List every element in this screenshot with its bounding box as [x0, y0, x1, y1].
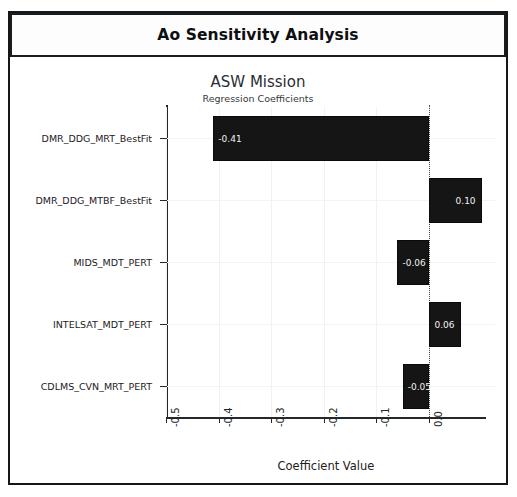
gridline-horizontal [166, 386, 495, 387]
zero-reference-line [429, 105, 431, 419]
chart-subtitle: Regression Coefficients [10, 93, 506, 104]
x-tick [219, 417, 220, 423]
bar: 0.10 [429, 178, 482, 223]
y-tick-label: CDLMS_CVN_MRT_PERT [41, 381, 152, 392]
x-tick-label: -0.4 [223, 407, 234, 427]
x-tick-label: 0.0 [433, 411, 444, 427]
y-tick [160, 386, 167, 387]
window-header: Ao Sensitivity Analysis [10, 13, 506, 57]
bar: 0.06 [429, 302, 461, 347]
y-tick-label: MIDS_MDT_PERT [73, 257, 152, 268]
bar-value-label: 0.06 [435, 320, 455, 330]
x-tick [376, 417, 377, 423]
y-tick-label: INTELSAT_MDT_PERT [53, 319, 152, 330]
y-tick [160, 138, 167, 139]
page-title: Ao Sensitivity Analysis [157, 26, 358, 44]
x-tick [324, 417, 325, 423]
plot-area: -0.410.10-0.060.06-0.05 [166, 107, 495, 417]
x-tick-label: -0.1 [380, 407, 391, 427]
y-tick [160, 324, 167, 325]
y-tick-label: DMR_DDG_MTBF_BestFit [35, 195, 152, 206]
y-tick [160, 262, 167, 263]
y-tick-label: DMR_DDG_MRT_BestFit [42, 133, 152, 144]
x-tick [429, 417, 430, 423]
bar: -0.41 [213, 116, 429, 161]
bar: -0.05 [403, 364, 429, 409]
x-tick-label: -0.3 [275, 407, 286, 427]
x-axis-label: Coefficient Value [166, 459, 486, 473]
bar-value-label: 0.10 [456, 196, 476, 206]
bar: -0.06 [397, 240, 429, 285]
chart-panel: ASW Mission Regression Coefficients -0.4… [10, 59, 506, 483]
y-tick [160, 200, 167, 201]
bar-value-label: -0.06 [402, 258, 425, 268]
bar-value-label: -0.41 [218, 134, 241, 144]
chart-title: ASW Mission [10, 73, 506, 91]
x-tick [166, 417, 167, 423]
gridline-horizontal [166, 262, 495, 263]
x-tick [271, 417, 272, 423]
x-tick-label: -0.5 [170, 407, 181, 427]
bar-value-label: -0.05 [408, 382, 431, 392]
x-tick-label: -0.2 [328, 407, 339, 427]
sensitivity-analysis-window: Ao Sensitivity Analysis ASW Mission Regr… [0, 0, 517, 497]
